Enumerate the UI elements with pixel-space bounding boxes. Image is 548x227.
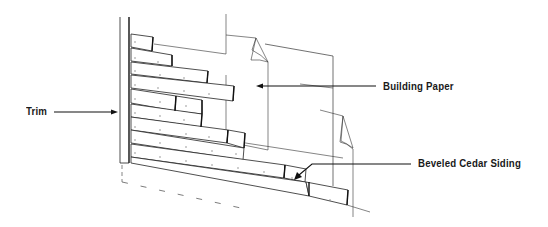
paper-curl-bottom-icon <box>341 116 353 148</box>
label-trim: Trim <box>26 105 47 117</box>
siding-board <box>306 182 348 205</box>
siding-diagram <box>0 0 548 227</box>
label-beveled-cedar-siding: Beveled Cedar Siding <box>418 157 521 169</box>
trim-leader-arrow <box>54 110 118 115</box>
wall-top-edge <box>154 44 226 54</box>
siding-leader-arrow <box>294 164 411 180</box>
arrow-head-icon <box>111 110 118 115</box>
siding-board <box>227 130 245 148</box>
corner-trim <box>120 17 129 163</box>
label-building-paper: Building Paper <box>383 80 454 92</box>
